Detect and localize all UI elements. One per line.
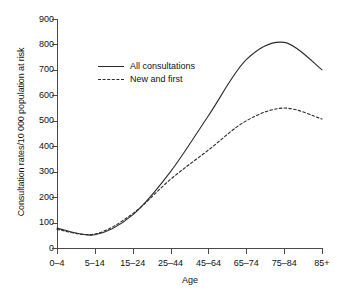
legend-swatch-dashed-icon (98, 75, 124, 83)
x-tick-mark (246, 249, 247, 254)
y-tick-label: 700 (26, 65, 54, 74)
y-tick-mark (52, 223, 57, 224)
x-tick-label: 85+ (299, 258, 344, 268)
legend-item-new-and-first: New and first (98, 72, 218, 85)
y-tick-label: 100 (26, 218, 54, 227)
legend-item-all-consultations: All consultations (98, 59, 218, 72)
y-tick-label: 500 (26, 116, 54, 125)
x-tick-mark (171, 249, 172, 254)
y-tick-mark (52, 70, 57, 71)
x-tick-mark (322, 249, 323, 254)
y-tick-mark (52, 19, 57, 20)
y-tick-mark (52, 146, 57, 147)
x-tick-mark (57, 249, 58, 254)
y-tick-mark (52, 44, 57, 45)
legend-label: New and first (130, 74, 183, 84)
chart-figure: Consultation rates/10 000 population at … (0, 0, 344, 299)
y-tick-label: 600 (26, 91, 54, 100)
y-tick-mark (52, 172, 57, 173)
y-tick-label: 900 (26, 15, 54, 24)
y-tick-label: 300 (26, 167, 54, 176)
x-tick-mark (284, 249, 285, 254)
x-tick-mark (95, 249, 96, 254)
y-tick-label: 400 (26, 142, 54, 151)
x-axis-title: Age (57, 275, 323, 285)
y-tick-mark (52, 121, 57, 122)
legend-label: All consultations (130, 61, 195, 71)
y-tick-label: 0 (26, 244, 54, 253)
y-axis-tick-labels: 9008007006005004003002001000 (26, 0, 54, 299)
series-line-2 (57, 108, 322, 235)
y-tick-label: 200 (26, 193, 54, 202)
y-tick-mark (52, 197, 57, 198)
x-tick-mark (208, 249, 209, 254)
y-tick-mark (52, 95, 57, 96)
legend-swatch-solid-icon (98, 62, 124, 70)
chart-legend: All consultations New and first (98, 59, 218, 85)
y-tick-label: 800 (26, 40, 54, 49)
x-tick-mark (133, 249, 134, 254)
chart-data-layer (57, 19, 322, 248)
